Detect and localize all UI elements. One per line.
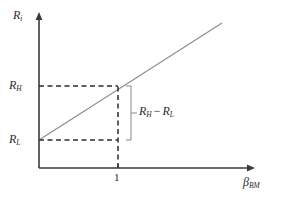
difference-left-subscript: H [146,110,151,119]
y-tick-label-rh-subscript: H [16,84,21,93]
minus-operator: − [152,104,163,118]
x-axis-label: βBM [243,176,260,188]
difference-annotation-label: RH−RL [139,105,174,117]
plot-canvas [0,0,281,199]
difference-right-base: R [163,104,170,118]
y-axis [36,12,43,168]
security-market-line-figure: Ri RH RL RH−RL 1 βBM [0,0,281,199]
y-tick-label-rh: RH [9,79,22,91]
x-axis [39,165,255,172]
y-tick-label-rl-subscript: L [16,138,20,147]
difference-right-subscript: L [170,110,174,119]
y-axis-label: Ri [13,9,22,21]
x-axis-label-subscript: BM [249,181,260,190]
x-tick-label-one: 1 [114,172,120,183]
difference-bracket [126,86,137,140]
y-tick-label-rl: RL [9,133,20,145]
